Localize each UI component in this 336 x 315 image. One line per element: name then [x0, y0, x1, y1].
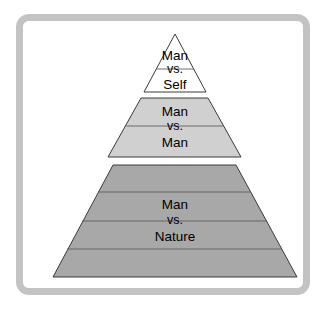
- tier-self-line-1: Man: [162, 48, 188, 63]
- tier-nature-line-2: vs.: [167, 213, 183, 227]
- tier-man-line-1: Man: [162, 104, 188, 119]
- tier-self-line-2: vs.: [167, 62, 183, 76]
- tier-nature-line-3: Nature: [155, 229, 196, 244]
- tier-nature-line-1: Man: [162, 197, 188, 212]
- conflict-pyramid: Man vs. Nature Man vs. Man Man vs. Self: [0, 0, 336, 315]
- tier-man-line-2: vs.: [167, 119, 183, 133]
- diagram-canvas: Man vs. Nature Man vs. Man Man vs. Self: [0, 0, 336, 315]
- pyramid-tier-man[interactable]: Man vs. Man: [108, 98, 241, 157]
- tier-self-line-3: Self: [163, 77, 187, 92]
- tier-man-line-3: Man: [162, 135, 188, 150]
- pyramid-tier-self[interactable]: Man vs. Self: [144, 34, 206, 92]
- pyramid-tier-nature[interactable]: Man vs. Nature: [53, 165, 297, 277]
